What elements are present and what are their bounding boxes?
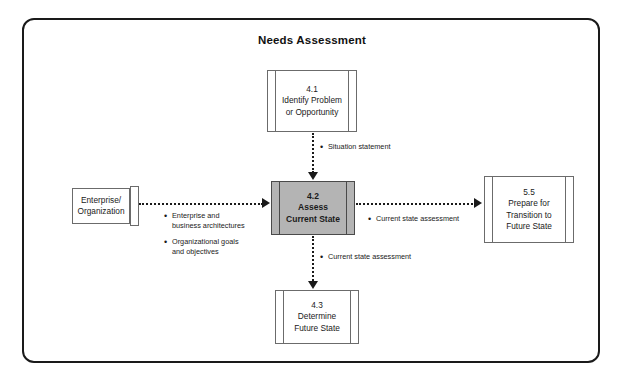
node-4-3-determine-future-state[interactable]: 4.3 Determine Future State bbox=[275, 290, 359, 344]
node-4-1-line2: or Opportunity bbox=[282, 107, 342, 119]
node-enterprise-edge-bar bbox=[130, 186, 139, 226]
node-5-5-label: 5.5 Prepare for Transition to Future Sta… bbox=[496, 187, 562, 233]
node-4-3-line1: Determine bbox=[294, 311, 340, 323]
node-5-5-left-bar bbox=[492, 177, 493, 242]
arrowhead-4-1-to-4-2-icon bbox=[308, 172, 318, 180]
node-4-2-label: 4.2 Assess Current State bbox=[276, 191, 350, 226]
flow-label-enterprise-inputs: • Enterprise and business architectures … bbox=[164, 211, 245, 257]
node-5-5-prepare-for-transition-to-future-state[interactable]: 5.5 Prepare for Transition to Future Sta… bbox=[484, 176, 574, 243]
flow-label-input-item-2: • Organizational goals and objectives bbox=[164, 237, 245, 257]
flow-label-input-item-2-text: Organizational goals and objectives bbox=[172, 237, 239, 257]
node-4-1-number: 4.1 bbox=[282, 84, 342, 96]
bullet-icon: • bbox=[368, 214, 376, 224]
flow-label-situation-statement-text: Situation statement bbox=[328, 142, 390, 152]
connector-4-2-to-5-5 bbox=[356, 203, 473, 205]
bullet-icon: • bbox=[164, 211, 172, 221]
node-4-2-line2: Current State bbox=[286, 214, 340, 226]
node-5-5-line1: Prepare for bbox=[506, 198, 552, 210]
bullet-icon: • bbox=[164, 237, 172, 247]
node-4-3-right-bar bbox=[350, 291, 351, 343]
flow-label-input-item-2-line1: Organizational goals bbox=[172, 237, 239, 247]
node-4-1-line1: Identify Problem bbox=[282, 95, 342, 107]
connector-enterprise-to-4-2 bbox=[139, 203, 263, 205]
flow-label-current-state-assessment-down-text: Current state assessment bbox=[328, 252, 411, 262]
bullet-icon: • bbox=[320, 252, 328, 262]
diagram-title: Needs Assessment bbox=[0, 34, 624, 46]
flow-label-input-item-1-line2: business architectures bbox=[172, 221, 245, 231]
node-5-5-number: 5.5 bbox=[506, 187, 552, 199]
connector-4-2-to-4-3 bbox=[312, 236, 314, 281]
arrowhead-enterprise-to-4-2-icon bbox=[262, 198, 270, 208]
node-4-2-line1: Assess bbox=[286, 202, 340, 214]
node-enterprise-line1: Enterprise/ bbox=[81, 195, 121, 205]
arrowhead-4-2-to-5-5-icon bbox=[474, 198, 482, 208]
node-4-3-label: 4.3 Determine Future State bbox=[284, 300, 350, 335]
node-enterprise-organization[interactable]: Enterprise/ Organization bbox=[72, 188, 130, 224]
node-5-5-right-bar bbox=[565, 177, 566, 242]
diagram-canvas: Needs Assessment Enterprise/ Organizatio… bbox=[0, 0, 624, 388]
flow-label-current-state-assessment-right: • Current state assessment bbox=[368, 214, 459, 224]
flow-label-current-state-assessment-right-text: Current state assessment bbox=[376, 214, 459, 224]
node-4-3-line2: Future State bbox=[294, 323, 340, 335]
flow-label-input-item-2-line2: and objectives bbox=[172, 247, 239, 257]
node-4-2-assess-current-state[interactable]: 4.2 Assess Current State bbox=[271, 181, 355, 235]
flow-label-input-item-1: • Enterprise and business architectures bbox=[164, 211, 245, 231]
flow-label-current-state-assessment-down: • Current state assessment bbox=[320, 252, 411, 262]
node-enterprise-label: Enterprise/ Organization bbox=[73, 195, 129, 218]
node-4-2-number: 4.2 bbox=[286, 191, 340, 203]
node-4-1-identify-problem-or-opportunity[interactable]: 4.1 Identify Problem or Opportunity bbox=[267, 70, 357, 132]
node-5-5-line3: Future State bbox=[506, 221, 552, 233]
flow-label-input-item-1-text: Enterprise and business architectures bbox=[172, 211, 245, 231]
flow-label-input-item-1-line1: Enterprise and bbox=[172, 211, 245, 221]
node-4-1-label: 4.1 Identify Problem or Opportunity bbox=[272, 84, 352, 119]
bullet-icon: • bbox=[320, 142, 328, 152]
node-enterprise-line2: Organization bbox=[77, 206, 124, 216]
connector-4-1-to-4-2 bbox=[312, 133, 314, 173]
node-5-5-line2: Transition to bbox=[506, 210, 552, 222]
flow-label-situation-statement: • Situation statement bbox=[320, 142, 390, 152]
arrowhead-4-2-to-4-3-icon bbox=[308, 281, 318, 289]
node-4-3-number: 4.3 bbox=[294, 300, 340, 312]
